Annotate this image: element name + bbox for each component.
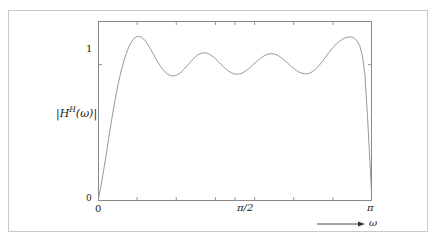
x-tick-label-0: 0	[95, 204, 101, 214]
x-axis-variable-label: ω	[369, 218, 377, 228]
y-tick-label-0: 0	[86, 194, 92, 203]
response-curve	[98, 36, 372, 201]
x-tick-label-pi-over-2: π/2	[237, 203, 253, 213]
right-arrow-icon	[317, 219, 365, 229]
y-axis-label-tail: (ω)|	[76, 107, 97, 120]
x-tick-label-pi: π	[367, 203, 374, 213]
y-tick-label-1: 1	[86, 44, 92, 54]
y-axis-label: |HH(ω)|	[56, 106, 97, 119]
magnitude-response-plot	[98, 21, 372, 201]
figure-root: |HH(ω)| 1 0 0 π/2 π ω	[0, 0, 436, 241]
plot-area	[98, 21, 372, 201]
y-axis-label-head: |H	[56, 107, 69, 120]
x-axis-tick-marks	[137, 21, 333, 201]
